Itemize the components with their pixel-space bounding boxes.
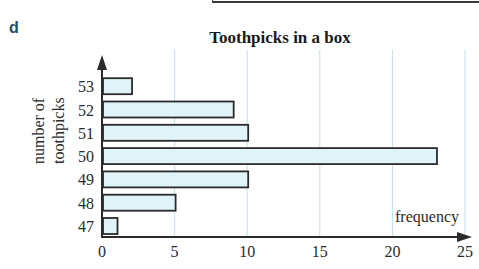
bar-47 (103, 218, 118, 234)
bar-49 (103, 171, 248, 187)
y-axis-arrow-icon (97, 55, 107, 70)
y-tick-label: 51 (78, 125, 94, 142)
x-tick-label: 20 (384, 243, 400, 260)
x-tick-labels: 0510152025 (98, 243, 473, 260)
bar-51 (103, 125, 248, 141)
y-tick-label: 52 (78, 102, 94, 119)
bar-52 (103, 102, 234, 118)
bars (103, 78, 437, 234)
bar-50 (103, 148, 437, 164)
x-tick-label: 10 (239, 243, 255, 260)
y-tick-label: 47 (78, 218, 94, 235)
x-axis-label: frequency (395, 208, 459, 226)
y-tick-label: 53 (78, 78, 94, 95)
x-tick-label: 5 (171, 243, 179, 260)
bar-53 (103, 78, 132, 94)
x-tick-label: 15 (312, 243, 328, 260)
x-tick-label: 25 (457, 243, 473, 260)
y-tick-label: 50 (78, 148, 94, 165)
x-tick-label: 0 (98, 243, 106, 260)
y-tick-label: 48 (78, 195, 94, 212)
y-tick-labels: 47484950515253 (78, 78, 94, 235)
bar-48 (103, 195, 176, 211)
y-tick-label: 49 (78, 171, 94, 188)
